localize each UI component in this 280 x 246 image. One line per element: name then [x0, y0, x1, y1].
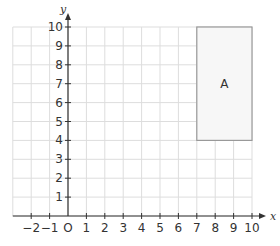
y-axis-label: y	[59, 3, 67, 16]
y-tick-label: 10	[48, 20, 63, 34]
y-tick-label: 3	[55, 152, 63, 166]
x-tick-label: 5	[156, 221, 164, 235]
shape-label: A	[220, 77, 229, 91]
x-tick-label: 9	[230, 221, 238, 235]
x-axis-arrow-icon	[259, 213, 266, 219]
y-tick-label: 1	[55, 190, 63, 204]
y-tick-label: 4	[55, 133, 63, 147]
y-tick-label: 9	[55, 39, 63, 53]
x-tick-label: 4	[138, 221, 146, 235]
x-tick-label: −1	[41, 221, 59, 235]
x-tick-label: 10	[244, 221, 259, 235]
y-tick-label: 8	[55, 58, 63, 72]
coordinate-grid: Axy−2−1O1234567891012345678910	[0, 0, 280, 246]
y-tick-label: 6	[55, 96, 63, 110]
x-tick-label: 1	[83, 221, 91, 235]
x-tick-label: −2	[22, 221, 40, 235]
y-tick-label: 2	[55, 171, 63, 185]
y-tick-label: 7	[55, 77, 63, 91]
x-tick-label: 7	[193, 221, 201, 235]
x-tick-label: 3	[119, 221, 127, 235]
x-tick-label: O	[63, 221, 72, 235]
x-tick-label: 2	[101, 221, 109, 235]
x-tick-label: 6	[175, 221, 183, 235]
y-tick-label: 5	[55, 115, 63, 129]
x-tick-label: 8	[211, 221, 219, 235]
x-axis-label: x	[270, 210, 277, 223]
